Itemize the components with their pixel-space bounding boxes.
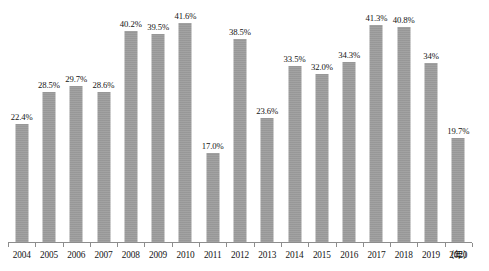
axis-tick	[336, 243, 337, 247]
bar-group-2008: 40.2%	[117, 0, 144, 242]
x-axis-label-2013: 2013	[258, 248, 276, 262]
x-axis-label-2016: 2016	[340, 248, 358, 262]
bar-2009[interactable]	[152, 34, 165, 242]
bar-value-label-2011: 17.0%	[202, 141, 224, 151]
bar-group-2011: 17.0%	[199, 0, 226, 242]
bar-group-2015: 32.0%	[308, 0, 335, 242]
bar-2014[interactable]	[288, 66, 301, 242]
bar-value-label-2006: 29.7%	[65, 74, 87, 84]
bar-value-label-2018: 40.8%	[393, 15, 415, 25]
x-axis-label-2008: 2008	[122, 248, 140, 262]
x-axis-label-2019: 2019	[422, 248, 440, 262]
bar-value-label-2010: 41.6%	[174, 11, 196, 21]
x-axis-label-2006: 2006	[67, 248, 85, 262]
bar-value-label-2013: 23.6%	[256, 106, 278, 116]
bar-2019[interactable]	[425, 63, 438, 242]
bar-value-label-2019: 34%	[423, 51, 439, 61]
bar-value-label-2005: 28.5%	[38, 80, 60, 90]
axis-tick	[35, 243, 36, 247]
axis-tick	[226, 243, 227, 247]
bar-value-label-2016: 34.3%	[338, 50, 360, 60]
bar-value-label-2015: 32.0%	[311, 62, 333, 72]
bar-2015[interactable]	[315, 74, 328, 242]
axis-tick	[472, 243, 473, 247]
x-axis-label-2014: 2014	[286, 248, 304, 262]
bar-value-label-2020: 19.7%	[447, 126, 469, 136]
bar-group-2012: 38.5%	[226, 0, 253, 242]
bar-chart: 22.4%28.5%29.7%28.6%40.2%39.5%41.6%17.0%…	[0, 0, 489, 271]
bar-group-2010: 41.6%	[172, 0, 199, 242]
axis-tick	[8, 243, 9, 247]
x-axis-label-2010: 2010	[176, 248, 194, 262]
bar-value-label-2017: 41.3%	[365, 13, 387, 23]
x-axis-label-2012: 2012	[231, 248, 249, 262]
x-axis-label-2005: 2005	[40, 248, 58, 262]
bar-value-label-2007: 28.6%	[93, 80, 115, 90]
bar-value-label-2009: 39.5%	[147, 22, 169, 32]
x-axis-label-2004: 2004	[13, 248, 31, 262]
axis-tick	[63, 243, 64, 247]
axis-tick	[90, 243, 91, 247]
bar-group-2009: 39.5%	[144, 0, 171, 242]
bar-2010[interactable]	[179, 23, 192, 242]
bar-group-2014: 33.5%	[281, 0, 308, 242]
bar-2013[interactable]	[261, 118, 274, 242]
axis-tick	[417, 243, 418, 247]
bar-value-label-2008: 40.2%	[120, 19, 142, 29]
bar-group-2007: 28.6%	[90, 0, 117, 242]
bar-value-label-2004: 22.4%	[11, 112, 33, 122]
bar-group-2016: 34.3%	[336, 0, 363, 242]
axis-tick	[144, 243, 145, 247]
x-axis-category-labels: 2004200520062007200820092010201120122013…	[8, 248, 472, 266]
bar-2012[interactable]	[233, 39, 246, 242]
bar-2005[interactable]	[42, 92, 55, 242]
x-axis-label-2015: 2015	[313, 248, 331, 262]
bar-group-2018: 40.8%	[390, 0, 417, 242]
x-axis-label-2011: 2011	[204, 248, 222, 262]
axis-tick	[117, 243, 118, 247]
bar-group-2013: 23.6%	[254, 0, 281, 242]
bar-group-2019: 34%	[417, 0, 444, 242]
bar-2018[interactable]	[397, 27, 410, 242]
axis-tick	[445, 243, 446, 247]
axis-tick	[254, 243, 255, 247]
bar-2017[interactable]	[370, 25, 383, 242]
bar-2011[interactable]	[206, 153, 219, 242]
bar-group-2005: 28.5%	[35, 0, 62, 242]
axis-tick	[363, 243, 364, 247]
x-axis-label-2007: 2007	[95, 248, 113, 262]
axis-tick	[390, 243, 391, 247]
plot-area: 22.4%28.5%29.7%28.6%40.2%39.5%41.6%17.0%…	[8, 0, 472, 242]
bar-value-label-2012: 38.5%	[229, 27, 251, 37]
x-axis-line	[8, 242, 472, 243]
x-axis-label-2018: 2018	[395, 248, 413, 262]
x-axis-label-2009: 2009	[149, 248, 167, 262]
axis-tick	[172, 243, 173, 247]
bar-group-2020: 19.7%	[445, 0, 472, 242]
x-axis-unit-label: （年）	[445, 248, 472, 262]
bar-2006[interactable]	[70, 86, 83, 242]
bar-value-label-2014: 33.5%	[284, 54, 306, 64]
bar-group-2004: 22.4%	[8, 0, 35, 242]
bar-2004[interactable]	[15, 124, 28, 242]
bar-2008[interactable]	[124, 31, 137, 242]
bar-group-2017: 41.3%	[363, 0, 390, 242]
bar-2007[interactable]	[97, 92, 110, 242]
axis-tick	[308, 243, 309, 247]
axis-tick	[199, 243, 200, 247]
axis-tick	[281, 243, 282, 247]
bar-2016[interactable]	[343, 62, 356, 242]
bar-group-2006: 29.7%	[63, 0, 90, 242]
x-axis-label-2017: 2017	[367, 248, 385, 262]
bar-2020[interactable]	[452, 138, 465, 242]
